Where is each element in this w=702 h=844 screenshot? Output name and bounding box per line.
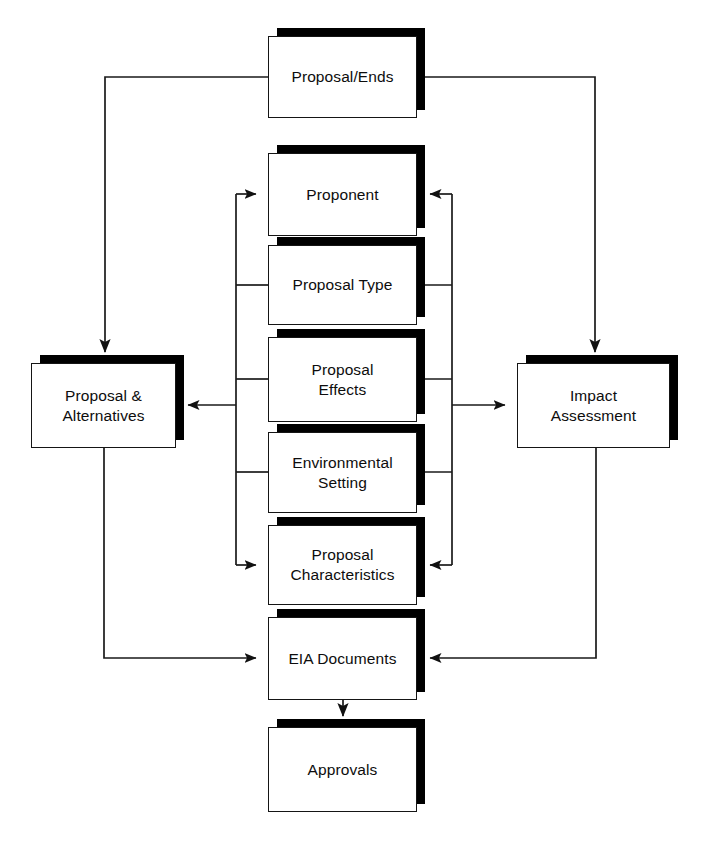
node-approvals[interactable]: Approvals — [268, 727, 417, 812]
node-proposal-ends[interactable]: Proposal/Ends — [268, 36, 417, 118]
node-label: EIA Documents — [288, 649, 396, 669]
node-environmental-setting[interactable]: Environmental Setting — [268, 432, 417, 513]
node-proponent[interactable]: Proponent — [268, 153, 417, 236]
diagram-canvas: Proposal/Ends Proponent Proposal Type Pr… — [0, 0, 702, 844]
node-proposal-characteristics[interactable]: Proposal Characteristics — [268, 525, 417, 605]
edge-impact-assessment-to-eia-documents — [430, 448, 596, 658]
node-label: Proposal/Ends — [291, 67, 393, 87]
node-label: Proposal Characteristics — [291, 545, 395, 585]
node-proposal-alternatives[interactable]: Proposal & Alternatives — [31, 363, 176, 448]
node-label: Proponent — [306, 185, 378, 205]
node-label: Proposal Type — [292, 275, 392, 295]
node-impact-assessment[interactable]: Impact Assessment — [517, 363, 670, 448]
node-label: Proposal Effects — [312, 360, 374, 400]
edge-proposal-ends-to-proposal-alternatives — [105, 77, 268, 352]
edge-proposal-alternatives-to-eia-documents — [104, 448, 256, 658]
node-eia-documents[interactable]: EIA Documents — [268, 617, 417, 700]
node-proposal-effects[interactable]: Proposal Effects — [268, 337, 417, 422]
node-label: Proposal & Alternatives — [62, 386, 144, 426]
edge-proposal-ends-to-impact-assessment — [417, 77, 595, 352]
node-label: Impact Assessment — [551, 386, 636, 426]
node-proposal-type[interactable]: Proposal Type — [268, 245, 417, 325]
node-label: Environmental Setting — [292, 453, 392, 493]
node-label: Approvals — [308, 760, 378, 780]
